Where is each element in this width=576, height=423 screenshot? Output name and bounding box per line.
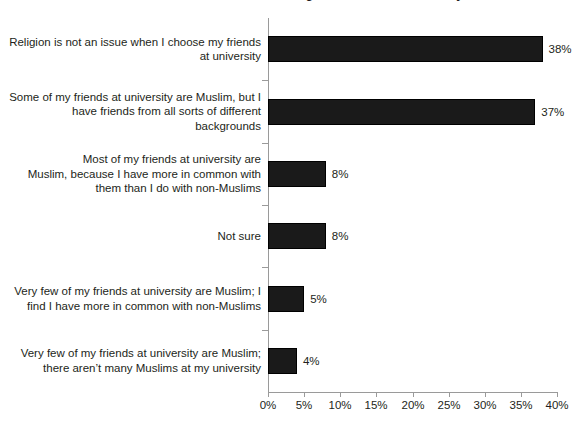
category-label-line: Not sure	[4, 229, 261, 244]
value-tick	[340, 392, 341, 397]
category-label-line: Very few of my friends at university are…	[4, 346, 261, 361]
bar	[268, 286, 304, 312]
category-label-line: find I have more in common with non-Musl…	[4, 299, 261, 314]
category-label-line: there aren’t many Muslims at my universi…	[4, 361, 261, 376]
category-label-line: Some of my friends at university are Mus…	[4, 90, 261, 105]
bar-value-label: 38%	[549, 36, 572, 62]
x-axis-tick-label: 35%	[501, 399, 541, 411]
category-tick	[262, 267, 269, 268]
x-axis-tick-label: 30%	[465, 399, 505, 411]
category-label: Some of my friends at university are Mus…	[4, 90, 261, 134]
bar	[268, 348, 297, 374]
category-tick	[262, 330, 269, 331]
bar	[268, 223, 326, 249]
value-tick	[557, 392, 558, 397]
bar-value-label: 5%	[310, 286, 327, 312]
bar	[268, 161, 326, 187]
x-axis-tick-label: 0%	[248, 399, 288, 411]
category-label-line: Religion is not an issue when I choose m…	[4, 35, 261, 50]
x-axis-tick-label: 20%	[393, 399, 433, 411]
bar-value-label: 8%	[332, 161, 349, 187]
category-label-line: Very few of my friends at university are…	[4, 284, 261, 299]
value-tick	[413, 392, 414, 397]
category-label-line: backgrounds	[4, 119, 261, 134]
category-tick	[262, 80, 269, 81]
category-label-line: Muslim, because I have more in common wi…	[4, 167, 261, 182]
x-axis-tick-label: 15%	[356, 399, 396, 411]
bar-value-label: 37%	[541, 99, 564, 125]
category-label-line: them than I do with non-Muslims	[4, 181, 261, 196]
category-label: Most of my friends at university areMusl…	[4, 152, 261, 196]
category-label: Very few of my friends at university are…	[4, 284, 261, 313]
x-axis-tick-label: 40%	[537, 399, 576, 411]
value-tick	[304, 392, 305, 397]
bar	[268, 36, 543, 62]
category-label-line: Most of my friends at university are	[4, 152, 261, 167]
bar	[268, 99, 535, 125]
value-tick	[376, 392, 377, 397]
value-tick	[449, 392, 450, 397]
category-label: Not sure	[4, 229, 261, 244]
bar-value-label: 8%	[332, 223, 349, 249]
category-tick	[262, 205, 269, 206]
category-label: Very few of my friends at university are…	[4, 346, 261, 375]
x-axis-tick-label: 5%	[284, 399, 324, 411]
value-tick	[521, 392, 522, 397]
category-label-line: at university	[4, 49, 261, 64]
value-tick	[485, 392, 486, 397]
bar-value-label: 4%	[303, 348, 320, 374]
category-label: Religion is not an issue when I choose m…	[4, 35, 261, 64]
category-label-line: have friends from all sorts of different	[4, 104, 261, 119]
x-axis-tick-label: 25%	[429, 399, 469, 411]
x-axis-tick-label: 10%	[320, 399, 360, 411]
chart-title: Statements about Muslims choosing their …	[0, 0, 562, 1]
value-tick	[268, 392, 269, 397]
category-tick	[262, 143, 269, 144]
